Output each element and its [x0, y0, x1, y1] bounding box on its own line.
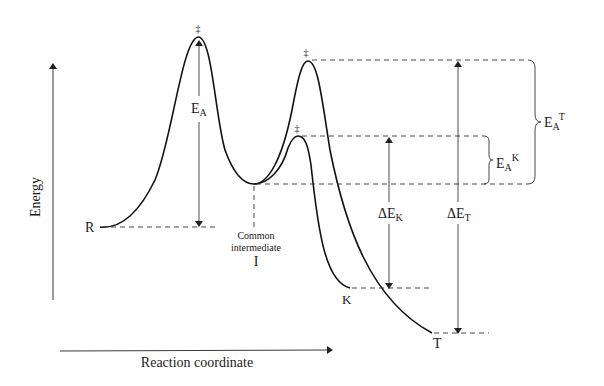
delta-et-label: ΔET: [447, 206, 471, 223]
y-axis-label: Energy: [28, 177, 43, 217]
ts-thermo-symbol: ‡: [304, 47, 309, 58]
reactant-label: R: [85, 220, 95, 235]
ea-k-label: EAK: [496, 152, 520, 173]
intermediate-label-line2: intermediate: [231, 242, 282, 253]
delta-ek-label: ΔEK: [378, 206, 404, 223]
ea-label: EA: [191, 101, 208, 118]
kinetic-product-label: K: [342, 292, 352, 307]
intermediate-symbol: I: [254, 254, 259, 269]
ea-k-brace: [484, 136, 493, 184]
thermo-product-label: T: [433, 336, 442, 351]
ea-t-label: EAT: [544, 111, 565, 132]
kinetic-pathway-curve: [254, 136, 350, 288]
ts1-symbol: ‡: [196, 23, 201, 34]
thermodynamic-pathway-curve: [100, 37, 432, 333]
x-axis: [60, 350, 330, 351]
intermediate-label-line1: Common: [237, 230, 274, 241]
x-axis-label: Reaction coordinate: [141, 355, 253, 370]
ts-kinetic-symbol: ‡: [295, 123, 300, 134]
energy-diagram: Energy Reaction coordinate ‡ ‡ ‡ EA ΔEK …: [0, 0, 604, 386]
ea-t-brace: [528, 60, 541, 184]
